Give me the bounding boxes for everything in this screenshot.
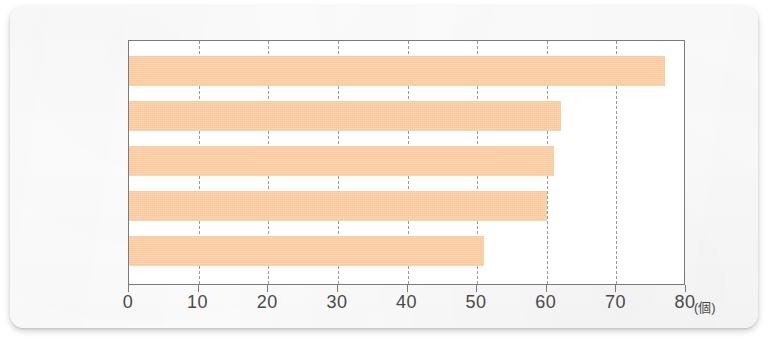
- xtick-mark-40: [407, 285, 408, 292]
- xtick-mark-30: [337, 285, 338, 292]
- xtick-label-0: 0: [88, 292, 168, 313]
- horizontal-bar-chart: タオル コップ ティッシュ お菓子 時 計 0 10 20 30 40 50 6…: [0, 0, 770, 349]
- bar-towel: タオル: [129, 56, 665, 86]
- x-axis-unit-label: (個): [694, 297, 716, 316]
- xtick-mark-60: [546, 285, 547, 292]
- xtick-mark-0: [128, 285, 129, 292]
- xtick-label-30: 30: [297, 292, 377, 313]
- xtick-mark-80: [685, 285, 686, 292]
- xtick-mark-20: [267, 285, 268, 292]
- xtick-mark-10: [198, 285, 199, 292]
- bar-tissue: ティッシュ: [129, 146, 554, 176]
- xtick-label-50: 50: [436, 292, 516, 313]
- bar-clock: 時 計: [129, 236, 484, 266]
- bar-cup: コップ: [129, 101, 561, 131]
- xtick-label-40: 40: [367, 292, 447, 313]
- xtick-label-10: 10: [158, 292, 238, 313]
- xtick-mark-70: [615, 285, 616, 292]
- plot-area: タオル コップ ティッシュ お菓子 時 計: [128, 40, 685, 285]
- xtick-label-60: 60: [506, 292, 586, 313]
- xtick-mark-50: [476, 285, 477, 292]
- xtick-label-20: 20: [227, 292, 307, 313]
- xtick-label-70: 70: [575, 292, 655, 313]
- bar-sweets: お菓子: [129, 191, 547, 221]
